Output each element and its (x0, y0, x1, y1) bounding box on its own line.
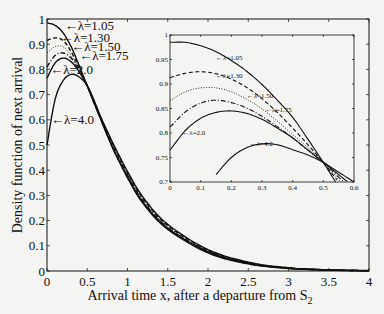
series-label: ←λ=1.30 (216, 72, 243, 80)
inset-plot-frame (170, 35, 354, 182)
y-axis-label: Density function of next arrival (10, 57, 25, 234)
x-tick-label: 4 (366, 274, 373, 289)
y-tick-label: 0.7 (159, 178, 168, 186)
x-tick-label: 0.1 (196, 184, 205, 192)
x-tick-label: 0.5 (79, 274, 95, 289)
x-tick-label: 0.2 (227, 184, 236, 192)
y-tick-label: 0.95 (156, 56, 169, 64)
x-tick-label: 0.6 (350, 184, 359, 192)
density-chart: 00.511.522.533.54 00.10.20.30.40.50.60.7… (0, 0, 384, 314)
y-tick-label: 0.3 (29, 188, 45, 203)
y-tick-label: 0.9 (159, 80, 168, 88)
x-tick-label: 3 (285, 274, 292, 289)
series-label: ←λ=2.0 (50, 62, 93, 77)
y-tick-label: 0.75 (156, 154, 169, 162)
x-tick-label: 3.5 (321, 274, 337, 289)
x-tick-label: 2 (205, 274, 212, 289)
y-tick-label: 0.2 (29, 213, 45, 228)
x-tick-label: 0 (168, 184, 172, 192)
x-tick-label: 0.5 (319, 184, 328, 192)
y-tick-label: 0.8 (29, 62, 45, 77)
series-label: ←λ=1.75 (265, 106, 292, 114)
series-label: ←λ=1.50 (247, 92, 274, 100)
series-label: ←λ=2.0 (182, 129, 206, 137)
y-tick-label: 1 (165, 31, 169, 39)
y-tick-label: 0 (39, 264, 46, 279)
y-tick-label: 0.9 (29, 37, 45, 52)
x-tick-label: 1.5 (160, 274, 176, 289)
y-tick-label: 1 (39, 12, 46, 27)
series-label: ←λ=4.0 (250, 140, 274, 148)
y-tick-label: 0.8 (159, 129, 168, 137)
series-label: ←λ=1.05 (216, 54, 243, 62)
x-tick-label: 2.5 (240, 274, 256, 289)
series-label: ←λ=1.75 (79, 48, 128, 63)
series-label: ←λ=4.0 (51, 112, 94, 127)
y-tick-label: 0.4 (29, 163, 46, 178)
y-tick-label: 0.6 (29, 112, 46, 127)
y-tick-label: 0.5 (29, 138, 45, 153)
x-tick-label: 0.3 (258, 184, 267, 192)
inset-plot-area: 00.10.20.30.40.50.6 0.70.750.80.850.90.9… (156, 31, 359, 192)
x-tick-label: 0.4 (288, 184, 297, 192)
y-tick-label: 0.85 (156, 105, 169, 113)
y-tick-label: 0.1 (29, 238, 45, 253)
y-tick-label: 0.7 (29, 87, 46, 102)
x-tick-label: 1 (124, 274, 131, 289)
